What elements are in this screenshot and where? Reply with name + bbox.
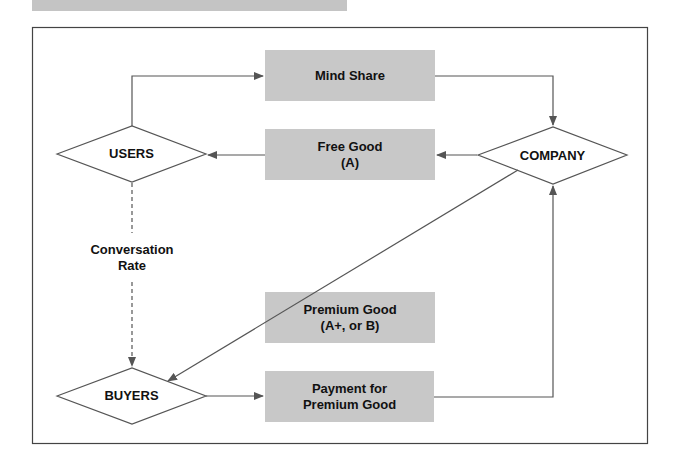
free-good-label: Free Good (A) xyxy=(265,129,435,180)
arrow-users-to-mindshare xyxy=(132,76,263,126)
payment-label: Payment for Premium Good xyxy=(265,371,434,422)
arrow-mindshare-to-company xyxy=(435,76,553,125)
premium-good-label: Premium Good (A+, or B) xyxy=(265,292,435,343)
mind-share-label: Mind Share xyxy=(265,50,435,101)
arrow-payment-to-company xyxy=(434,186,553,397)
conversion-rate-label: Conversation Rate xyxy=(72,238,192,278)
company-label: COMPANY xyxy=(478,127,627,184)
arrow-company-to-buyers xyxy=(168,170,518,381)
buyers-label: BUYERS xyxy=(57,368,206,424)
users-label: USERS xyxy=(57,126,206,182)
